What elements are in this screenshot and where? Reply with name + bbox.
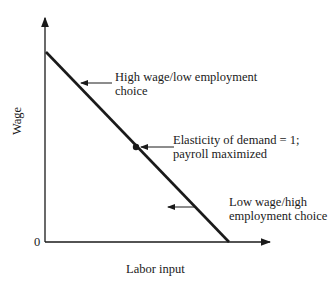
origin-label: 0 xyxy=(34,235,40,249)
elasticity-line1: Elasticity of demand = 1; xyxy=(173,133,299,147)
y-axis-label: Wage xyxy=(10,107,24,135)
elasticity-line2: payroll maximized xyxy=(173,147,299,161)
elasticity-annotation: Elasticity of demand = 1; payroll maximi… xyxy=(173,133,299,161)
low-wage-line1: Low wage/high xyxy=(229,195,327,209)
low-wage-line2: employment choice xyxy=(229,209,327,223)
high-wage-line1: High wage/low employment xyxy=(115,70,257,84)
low-wage-annotation: Low wage/high employment choice xyxy=(229,195,327,223)
unit-elastic-point xyxy=(133,144,139,150)
high-wage-annotation: High wage/low employment choice xyxy=(115,70,257,98)
x-axis-label: Labor input xyxy=(126,262,185,276)
high-wage-line2: choice xyxy=(115,84,257,98)
